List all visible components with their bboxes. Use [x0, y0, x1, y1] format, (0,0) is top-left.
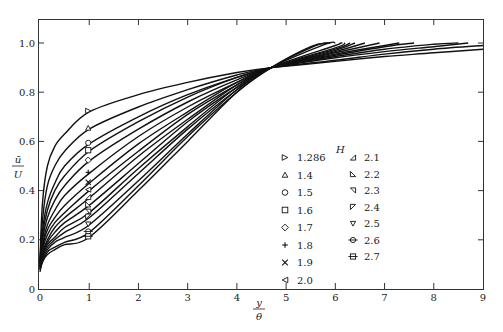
legend-item: 1.286 [282, 152, 325, 163]
triangle-upper-right-icon [350, 204, 355, 209]
diamond-icon [282, 224, 289, 231]
legend-label: 1.7 [297, 222, 313, 233]
triangle-up-icon [282, 172, 288, 177]
x-axis-label: y θ [253, 297, 265, 322]
triangle-lower-left-icon [350, 155, 355, 160]
legend-item: 2.1 [350, 152, 380, 163]
marker-plus-icon [86, 170, 91, 175]
legend-label: 2.0 [297, 275, 313, 286]
triangle-right-icon [282, 155, 288, 161]
x-tick-label: 8 [431, 292, 437, 303]
x-tick-label: 9 [480, 292, 486, 303]
velocity-profile-curves [40, 42, 483, 272]
legend-item: 1.5 [282, 187, 313, 198]
marker-circle-icon [86, 140, 91, 145]
x-tick-label: 2 [135, 292, 141, 303]
triangle-down-icon [350, 221, 355, 226]
x-tick-label: 7 [381, 292, 387, 303]
legend-item: 2.4 [350, 202, 380, 213]
legend-item: 2.6 [348, 235, 380, 246]
y-tick-label: 1.0 [19, 38, 35, 49]
legend-label: 1.4 [297, 170, 313, 181]
y-tick-label: 0.6 [19, 136, 35, 147]
legend-item: 1.9 [282, 257, 313, 268]
legend-item: 1.8 [282, 240, 313, 251]
curve-H-1.4 [40, 46, 483, 262]
legend-label: 2.5 [364, 218, 380, 229]
chart: 012345678900.20.40.60.81.0 H 1.2861.41.5… [0, 0, 503, 332]
svg-text:θ: θ [256, 311, 262, 322]
legend-label: 1.286 [297, 152, 326, 163]
marker-square-icon [86, 148, 91, 153]
plot-frame [39, 20, 484, 290]
legend-label: 2.2 [364, 169, 380, 180]
y-tick-label: 0.8 [19, 87, 35, 98]
marker-diamond-icon [85, 157, 91, 163]
legend-item: 2.7 [348, 251, 380, 262]
square-bar-icon [348, 254, 357, 259]
legend-item: 1.4 [282, 170, 313, 181]
x-tick-label: 1 [86, 292, 92, 303]
legend-item: 1.7 [282, 222, 313, 233]
svg-text:U: U [14, 169, 23, 180]
square-icon [282, 207, 288, 213]
marker-circle-bar-icon [84, 229, 93, 234]
y-tick-label: 0 [29, 284, 35, 295]
legend-label: 1.5 [297, 187, 313, 198]
legend-label: 1.6 [297, 205, 313, 216]
marker-triangle-lower-left-icon [86, 194, 91, 199]
cross-icon [282, 260, 288, 266]
x-tick-label: 0 [37, 292, 43, 303]
triangle-upper-left-icon [350, 171, 355, 176]
x-tick-label: 4 [234, 292, 240, 303]
legend-item: 2.5 [350, 218, 380, 229]
circle-bar-icon [348, 237, 357, 242]
legend-title: H [335, 144, 345, 155]
legend-label: 2.7 [364, 251, 380, 262]
legend-label: 2.1 [364, 152, 380, 163]
plus-icon [282, 242, 288, 248]
legend-label: 2.3 [364, 185, 380, 196]
svg-text:ū: ū [15, 154, 21, 165]
triangle-lower-right-icon [350, 188, 355, 193]
x-tick-label: 6 [332, 292, 338, 303]
triangle-left-icon [282, 277, 288, 283]
svg-text:y: y [255, 297, 262, 308]
y-tick-label: 0.4 [19, 185, 35, 196]
legend-item: 2.0 [282, 275, 313, 286]
x-tick-label: 5 [283, 292, 289, 303]
legend-label: 1.8 [297, 240, 313, 251]
y-axis-label: ū U [12, 154, 24, 180]
x-tick-label: 3 [184, 292, 190, 303]
legend: H 1.2861.41.51.61.71.81.92.02.12.22.32.4… [282, 144, 380, 286]
legend-label: 1.9 [297, 257, 313, 268]
circle-icon [282, 190, 288, 196]
curve-H-1.286 [40, 49, 483, 259]
legend-label: 2.6 [364, 235, 380, 246]
legend-item: 2.3 [350, 185, 380, 196]
y-tick-label: 0.2 [19, 234, 35, 245]
legend-item: 2.2 [350, 169, 380, 180]
legend-label: 2.4 [364, 202, 380, 213]
legend-item: 1.6 [282, 205, 313, 216]
